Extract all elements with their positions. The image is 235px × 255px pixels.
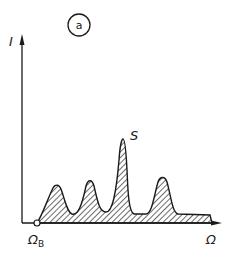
panel-label-badge: a xyxy=(68,14,90,36)
spectrum-area xyxy=(37,139,212,223)
omega-b-subscript: B xyxy=(38,239,44,249)
y-axis-label: I xyxy=(9,34,13,49)
x-axis-label: Ω xyxy=(205,232,216,247)
omega-b-marker xyxy=(34,220,40,226)
spectrum-diagram: a I ΩB Ω S xyxy=(0,0,235,255)
peak-s-label: S xyxy=(130,128,138,143)
omega-b-label: ΩB xyxy=(27,232,44,249)
omega-b-symbol: Ω xyxy=(27,232,38,247)
x-axis-arrow-icon xyxy=(211,221,222,226)
panel-label: a xyxy=(76,19,83,32)
y-axis-arrow-icon xyxy=(20,34,25,45)
